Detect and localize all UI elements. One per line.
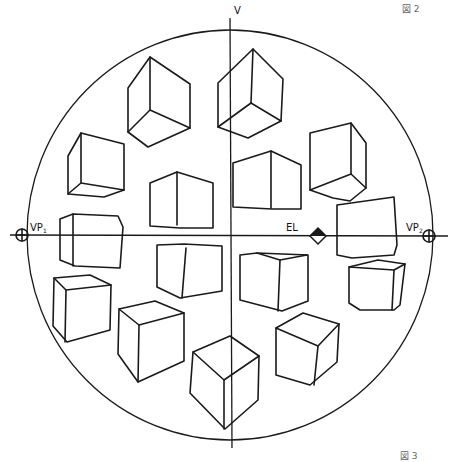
- cube-edge: [150, 172, 213, 228]
- cube-edge: [157, 244, 222, 298]
- vanishing-point-left-label: VP1: [30, 222, 47, 234]
- cube-edge: [218, 103, 251, 127]
- cube-edge: [54, 278, 111, 290]
- cube-edge: [310, 174, 351, 190]
- cube-group: [53, 49, 405, 429]
- cube-edge: [118, 301, 184, 382]
- cube-edge: [240, 253, 308, 311]
- cube-edge: [310, 123, 366, 201]
- cube-edge: [218, 49, 283, 138]
- cube-edge: [276, 324, 339, 346]
- cube: [157, 244, 222, 298]
- cube-edge: [138, 325, 139, 382]
- cube-edge: [60, 214, 123, 268]
- vertical-label: V: [234, 5, 241, 16]
- vanishing-point-right-marker: [423, 230, 435, 242]
- figure-3-caption: 図 3: [400, 451, 418, 461]
- cube: [276, 313, 339, 385]
- cube: [349, 260, 405, 310]
- cube-edge: [182, 248, 186, 298]
- cube: [240, 253, 308, 311]
- cube: [218, 49, 283, 138]
- cube: [128, 57, 190, 147]
- cube-edge: [150, 57, 190, 128]
- vanishing-point-left-marker: [16, 229, 28, 241]
- vertical-line: [230, 18, 232, 448]
- cube-edge: [68, 183, 81, 194]
- cube: [150, 172, 213, 228]
- cube-edge: [278, 260, 280, 311]
- vanishing-point-right-label: VP2: [406, 222, 423, 234]
- cube: [118, 301, 184, 382]
- perspective-diagram: V VP1 VP2 EL 図 2 図 3: [0, 0, 450, 462]
- cube-edge: [276, 313, 339, 385]
- cube-edge: [119, 309, 184, 325]
- eye-level-label: EL: [286, 222, 298, 233]
- cube: [60, 214, 123, 268]
- cube: [337, 197, 397, 258]
- horizon-line: [10, 235, 448, 236]
- cube: [310, 123, 366, 201]
- cube-edge: [251, 49, 281, 121]
- cube: [53, 275, 111, 342]
- cube: [233, 151, 301, 209]
- figure-2-caption: 図 2: [402, 4, 420, 14]
- cube-edge: [128, 110, 150, 132]
- cube: [190, 336, 259, 429]
- cube-edge: [233, 151, 301, 209]
- cube-edge: [392, 270, 394, 310]
- cube-edge: [65, 290, 66, 342]
- cube: [68, 133, 124, 197]
- cube-edge: [193, 352, 259, 380]
- cube-edge: [128, 57, 190, 147]
- eye-level-diamond-icon: [310, 228, 326, 244]
- cube-edge: [337, 197, 397, 258]
